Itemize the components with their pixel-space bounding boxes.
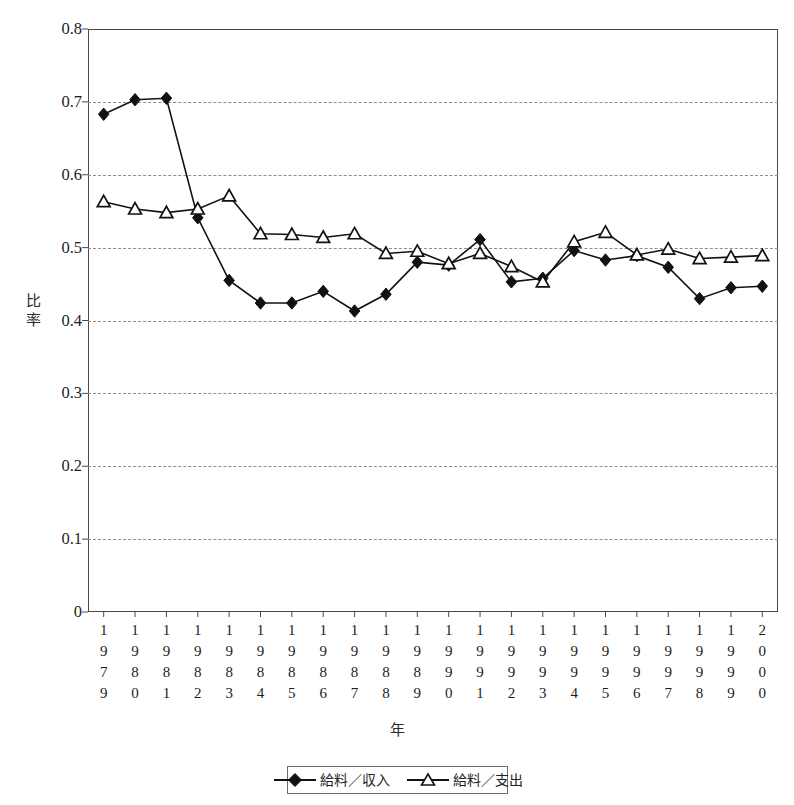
chart-figure: 比 率 00.10.20.30.40.50.60.70.8 1979198019… (0, 0, 794, 805)
x-axis-tick-digit: 1 (719, 620, 743, 641)
x-axis-tick-digit: 2 (750, 620, 774, 641)
legend-label-salary-expense: 給料／支出 (453, 773, 523, 787)
x-axis-title: 年 (0, 718, 794, 739)
x-axis-tick-digit: 1 (594, 620, 618, 641)
x-axis-tick-digit: 5 (594, 683, 618, 704)
x-axis-tick-digit: 0 (750, 662, 774, 683)
x-axis-tick-digit: 7 (656, 683, 680, 704)
x-axis-tick-digit: 1 (531, 620, 555, 641)
x-axis-tick-digit: 1 (656, 620, 680, 641)
x-axis-tick-digit: 8 (280, 662, 304, 683)
x-axis-tick-digit: 1 (249, 620, 273, 641)
x-axis-tick-label: 1992 (499, 620, 523, 704)
x-axis-tick-digit: 8 (217, 662, 241, 683)
x-axis-tick-digit: 0 (750, 683, 774, 704)
x-axis-tick-digit: 9 (656, 641, 680, 662)
x-axis-tick-label: 1984 (249, 620, 273, 704)
x-axis-tick-digit: 1 (217, 620, 241, 641)
x-axis-tick-label: 1994 (562, 620, 586, 704)
y-axis-tick-label: 0.2 (36, 458, 82, 475)
x-axis-tick-digit: 4 (249, 683, 273, 704)
x-axis-tick-digit: 9 (594, 641, 618, 662)
x-axis-tick-digit: 9 (343, 641, 367, 662)
x-axis-tick-label: 1993 (531, 620, 555, 704)
x-axis-tick-label: 1979 (92, 620, 116, 704)
plot-area (88, 29, 778, 612)
x-axis-tick-label: 1981 (154, 620, 178, 704)
x-axis-tick-digit: 9 (280, 641, 304, 662)
x-axis-tick-digit: 9 (499, 662, 523, 683)
x-axis-tick-label: 1998 (688, 620, 712, 704)
x-axis-tick-digit: 1 (343, 620, 367, 641)
x-axis-tick-digit: 9 (468, 662, 492, 683)
x-axis-tick-digit: 7 (92, 662, 116, 683)
x-axis-tick-digit: 1 (92, 620, 116, 641)
x-axis-tick-digit: 1 (405, 620, 429, 641)
x-axis-tick-digit: 3 (531, 683, 555, 704)
x-axis-tick-digit: 9 (311, 641, 335, 662)
x-axis-tick-digit: 9 (594, 662, 618, 683)
x-axis-tick-digit: 9 (562, 662, 586, 683)
legend-item-salary-income[interactable]: 給料／収入 (273, 772, 390, 788)
x-axis-tick-digit: 9 (186, 641, 210, 662)
x-axis-tick-digit: 9 (531, 662, 555, 683)
x-axis-tick-digit: 1 (186, 620, 210, 641)
x-axis-tick-digit: 9 (719, 662, 743, 683)
x-axis-tick-label: 2000 (750, 620, 774, 704)
x-axis-tick-digit: 4 (562, 683, 586, 704)
x-axis-tick-digit: 9 (154, 641, 178, 662)
x-axis-tick-label: 1995 (594, 620, 618, 704)
x-axis-tick-label: 1988 (374, 620, 398, 704)
x-axis-tick-digit: 9 (531, 641, 555, 662)
x-axis-tick-digit: 1 (468, 683, 492, 704)
x-axis-tick-digit: 9 (688, 641, 712, 662)
x-axis-tick-digit: 9 (656, 662, 680, 683)
x-axis-tick-digit: 9 (625, 641, 649, 662)
x-axis-tick-label: 1996 (625, 620, 649, 704)
filled-diamond-marker-icon (273, 772, 317, 788)
x-axis-tick-digit: 8 (186, 662, 210, 683)
x-axis-ticks (88, 29, 778, 612)
y-axis-tick-label: 0.4 (36, 313, 82, 330)
x-axis-tick-digit: 9 (562, 641, 586, 662)
x-axis-tick-digit: 8 (343, 662, 367, 683)
x-axis-tick-digit: 1 (374, 620, 398, 641)
x-axis-tick-label: 1986 (311, 620, 335, 704)
x-axis-tick-digit: 7 (343, 683, 367, 704)
x-axis-tick-digit: 9 (92, 641, 116, 662)
y-axis-tick-labels: 00.10.20.30.40.50.60.70.8 (36, 0, 82, 805)
x-axis-tick-digit: 1 (468, 620, 492, 641)
x-axis-tick-digit: 6 (625, 683, 649, 704)
x-axis-tick-label: 1980 (123, 620, 147, 704)
legend-item-salary-expense[interactable]: 給料／支出 (406, 772, 523, 788)
x-axis-tick-digit: 5 (280, 683, 304, 704)
x-axis-tick-digit: 9 (405, 683, 429, 704)
x-axis-tick-digit: 9 (249, 641, 273, 662)
x-axis-tick-digit: 1 (499, 620, 523, 641)
x-axis-tick-labels: 1979198019811982198319841985198619871988… (88, 620, 778, 710)
x-axis-tick-digit: 9 (92, 683, 116, 704)
x-axis-tick-digit: 9 (719, 683, 743, 704)
x-axis-tick-digit: 1 (625, 620, 649, 641)
x-axis-tick-digit: 0 (437, 683, 461, 704)
x-axis-tick-digit: 9 (374, 641, 398, 662)
x-axis-tick-label: 1987 (343, 620, 367, 704)
x-axis-tick-digit: 9 (437, 641, 461, 662)
x-axis-tick-label: 1982 (186, 620, 210, 704)
x-axis-tick-digit: 8 (374, 683, 398, 704)
x-axis-tick-digit: 8 (123, 662, 147, 683)
y-axis-tick-label: 0.6 (36, 167, 82, 184)
open-triangle-marker-icon (406, 772, 450, 788)
x-axis-tick-label: 1985 (280, 620, 304, 704)
x-axis-tick-digit: 1 (311, 620, 335, 641)
y-axis-tick-label: 0.8 (36, 21, 82, 38)
y-axis-tick-label: 0.1 (36, 531, 82, 548)
legend-label-salary-income: 給料／収入 (320, 773, 390, 787)
x-axis-tick-digit: 2 (186, 683, 210, 704)
x-axis-tick-digit: 9 (405, 641, 429, 662)
x-axis-tick-digit: 9 (719, 641, 743, 662)
x-axis-tick-digit: 0 (123, 683, 147, 704)
y-axis-tick-label: 0.7 (36, 94, 82, 111)
x-axis-tick-label: 1989 (405, 620, 429, 704)
chart-legend: 給料／収入 給料／支出 (287, 766, 508, 794)
